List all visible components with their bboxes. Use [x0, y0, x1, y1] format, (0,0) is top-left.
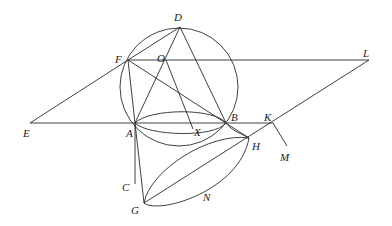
label-C: C	[122, 181, 130, 193]
label-M: M	[279, 151, 290, 163]
label-D: D	[173, 11, 182, 23]
label-H: H	[251, 140, 261, 152]
label-O: O	[157, 52, 165, 64]
label-L: L	[362, 47, 369, 59]
label-N: N	[202, 191, 211, 203]
ellipse-AB-lower-arc	[135, 123, 226, 134]
line-K-M	[273, 123, 287, 146]
label-X: X	[193, 126, 202, 138]
geometric-diagram: D F O L E A X B K H M C G N	[0, 0, 392, 226]
label-B: B	[231, 111, 238, 123]
line-O-X	[166, 60, 193, 129]
label-E: E	[22, 127, 30, 139]
line-A-G	[135, 123, 144, 203]
label-A: A	[125, 127, 133, 139]
label-F: F	[114, 53, 122, 65]
label-K: K	[263, 111, 272, 123]
line-F-A	[128, 60, 135, 123]
ellipse-AB-upper-arc	[135, 112, 226, 123]
ellipse-GNH-lower	[144, 138, 249, 206]
circumscribed-circle	[120, 28, 238, 146]
line-E-F	[30, 60, 128, 123]
label-G: G	[131, 204, 139, 216]
line-L-G	[144, 60, 369, 203]
